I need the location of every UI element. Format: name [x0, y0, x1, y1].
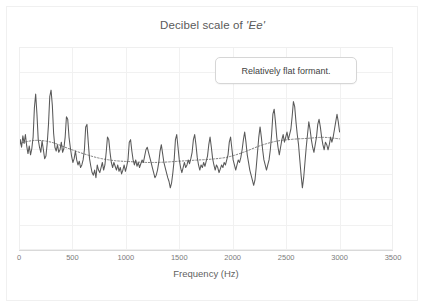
x-tick-label: 3500	[385, 253, 402, 262]
annotation-callout[interactable]: Relatively flat formant.	[215, 57, 357, 84]
x-tick-label: 500	[66, 253, 79, 262]
x-tick-label: 1500	[171, 253, 188, 262]
x-tick-label: 3000	[331, 253, 348, 262]
x-tick-label: 2000	[224, 253, 241, 262]
chart-title-vowel: 'Ee'	[246, 19, 265, 31]
x-tick-label: 2500	[278, 253, 295, 262]
chart-title-main: Decibel scale of	[160, 19, 246, 31]
chart-screenshot: Decibel scale of 'Ee' 050010001500200025…	[0, 0, 425, 308]
chart-title: Decibel scale of 'Ee'	[0, 19, 425, 31]
x-tick-label: 1000	[118, 253, 135, 262]
annotation-callout-text: Relatively flat formant.	[241, 66, 330, 76]
x-axis-line	[19, 250, 393, 251]
x-axis-tick-labels: 0500100015002000250030003500	[0, 253, 425, 267]
x-axis-title: Frequency (Hz)	[19, 268, 393, 279]
x-tick-label: 0	[17, 253, 21, 262]
